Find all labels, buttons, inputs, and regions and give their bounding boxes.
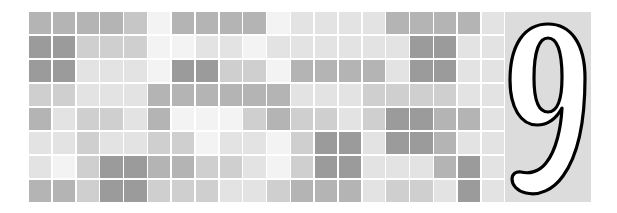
mosaic-tile [339, 132, 361, 154]
mosaic-tile [77, 108, 99, 130]
mosaic-tile [291, 180, 313, 202]
mosaic-tile [410, 12, 432, 34]
mosaic-tile [77, 132, 99, 154]
mosaic-tile [148, 156, 170, 178]
mosaic-tile [410, 36, 432, 58]
mosaic-tile [243, 156, 265, 178]
mosaic-tile [124, 84, 146, 106]
mosaic-tile [243, 36, 265, 58]
mosaic-tile [386, 156, 408, 178]
mosaic-tile [100, 84, 122, 106]
mosaic-tile [77, 12, 99, 34]
mosaic-tile [220, 156, 242, 178]
mosaic-tile [434, 108, 456, 130]
mosaic-tile [363, 108, 385, 130]
mosaic-tile [100, 156, 122, 178]
page-root [0, 0, 617, 213]
mosaic-tile [172, 132, 194, 154]
mosaic-tile [77, 84, 99, 106]
mosaic-tile [172, 84, 194, 106]
mosaic-tile [315, 180, 337, 202]
mosaic-tile [291, 132, 313, 154]
mosaic-tile [363, 156, 385, 178]
mosaic-tile [267, 132, 289, 154]
mosaic-tile [386, 12, 408, 34]
mosaic-tile [315, 84, 337, 106]
mosaic-tile [291, 84, 313, 106]
mosaic-tile [410, 84, 432, 106]
mosaic-tile [196, 156, 218, 178]
mosaic-tile [77, 60, 99, 82]
mosaic-tile [458, 60, 480, 82]
mosaic-tile [458, 12, 480, 34]
mosaic-tile [458, 132, 480, 154]
mosaic-tile [196, 60, 218, 82]
mosaic-tile [220, 132, 242, 154]
mosaic-tile [124, 132, 146, 154]
mosaic-tile [386, 84, 408, 106]
mosaic-tile [220, 84, 242, 106]
mosaic-tile [172, 12, 194, 34]
mosaic-tile [148, 180, 170, 202]
mosaic-tile [386, 132, 408, 154]
mosaic-tile [53, 84, 75, 106]
mosaic-tile [243, 132, 265, 154]
mosaic-tile [386, 36, 408, 58]
mosaic-tile [100, 36, 122, 58]
mosaic-tile [410, 60, 432, 82]
mosaic-tile [220, 180, 242, 202]
mosaic-tile [196, 132, 218, 154]
mosaic-tile [243, 108, 265, 130]
mosaic-tile [339, 84, 361, 106]
mosaic-tile [124, 60, 146, 82]
mosaic-tile [291, 12, 313, 34]
mosaic-tile [339, 12, 361, 34]
mosaic-tile [148, 108, 170, 130]
mosaic-tile [267, 84, 289, 106]
chapter-number-panel [505, 12, 591, 202]
mosaic-tile [29, 132, 51, 154]
mosaic-tile [172, 60, 194, 82]
mosaic-tile [363, 180, 385, 202]
mosaic-tile [29, 12, 51, 34]
mosaic-tile [53, 12, 75, 34]
mosaic-tile [339, 60, 361, 82]
mosaic-tile [220, 12, 242, 34]
mosaic-tile [243, 84, 265, 106]
mosaic-tile [29, 60, 51, 82]
mosaic-tile [53, 36, 75, 58]
mosaic-tile [243, 180, 265, 202]
mosaic-tile [434, 180, 456, 202]
mosaic-tile [482, 108, 504, 130]
mosaic-tile [124, 108, 146, 130]
mosaic-tile [172, 180, 194, 202]
mosaic-tile [363, 132, 385, 154]
mosaic-tile [196, 180, 218, 202]
mosaic-tile [53, 60, 75, 82]
mosaic-tile [267, 156, 289, 178]
mosaic-tile [291, 108, 313, 130]
mosaic-tile [53, 180, 75, 202]
mosaic-tile [410, 132, 432, 154]
mosaic-tile [100, 60, 122, 82]
mosaic-tile [482, 180, 504, 202]
mosaic-tile [291, 36, 313, 58]
mosaic-tile [124, 156, 146, 178]
mosaic-tile [363, 12, 385, 34]
mosaic-tile [196, 36, 218, 58]
mosaic-tile [124, 12, 146, 34]
mosaic-tile [410, 108, 432, 130]
mosaic-tile [482, 36, 504, 58]
mosaic-tile [482, 60, 504, 82]
mosaic-tile [100, 12, 122, 34]
mosaic-tile [339, 36, 361, 58]
mosaic-tile [29, 36, 51, 58]
mosaic-tile [148, 84, 170, 106]
mosaic-tile [458, 36, 480, 58]
mosaic-tile [315, 36, 337, 58]
mosaic-tile [363, 84, 385, 106]
mosaic-tile [315, 108, 337, 130]
mosaic-tile [100, 108, 122, 130]
mosaic-tile [196, 12, 218, 34]
mosaic-tile [291, 60, 313, 82]
